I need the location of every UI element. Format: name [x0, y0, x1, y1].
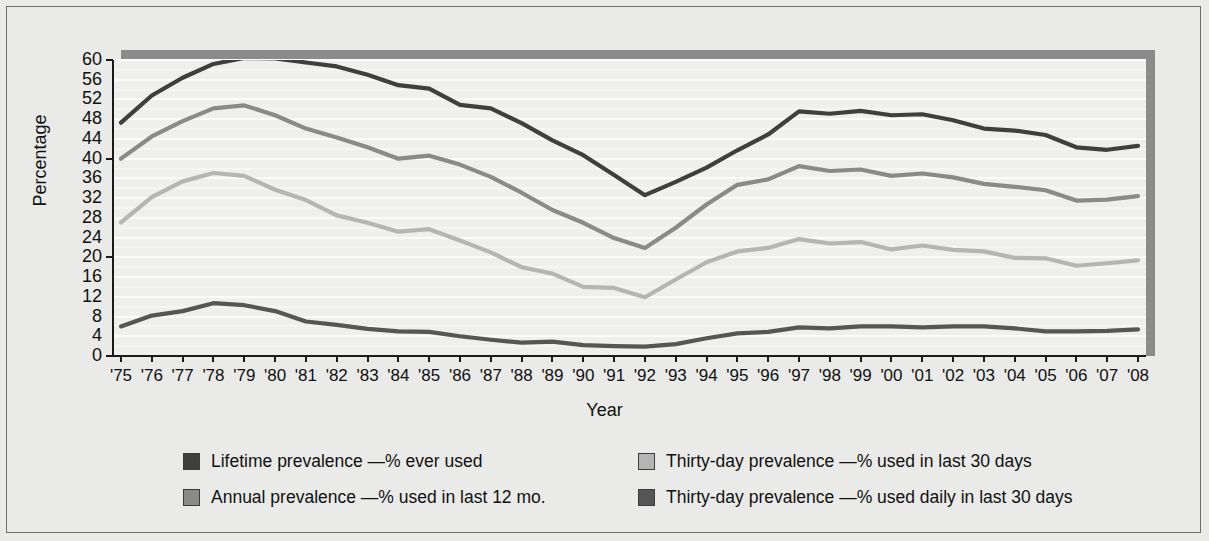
x-tick-mark — [767, 355, 769, 362]
y-tick-label: 12 — [32, 287, 102, 305]
series-line — [121, 303, 1138, 346]
x-tick-mark — [367, 355, 369, 362]
x-tick-mark — [582, 355, 584, 362]
x-tick-mark — [1137, 355, 1139, 362]
legend-row: Annual prevalence —% used in last 12 mo.… — [183, 479, 1123, 515]
y-tick-label: 4 — [32, 326, 102, 344]
x-tick-mark — [459, 355, 461, 362]
x-tick-mark — [613, 355, 615, 362]
x-tick-mark — [952, 355, 954, 362]
x-tick-mark — [490, 355, 492, 362]
x-tick-mark — [151, 355, 153, 362]
x-tick-mark — [706, 355, 708, 362]
x-tick-mark — [212, 355, 214, 362]
y-tick-mark — [106, 256, 113, 258]
legend: Lifetime prevalence —% ever usedThirty-d… — [183, 443, 1123, 515]
plot-area — [113, 60, 1146, 356]
y-axis — [112, 60, 114, 357]
plot-frame-shadow-top — [121, 50, 1155, 59]
x-tick-mark — [428, 355, 430, 362]
y-axis-title: Percentage — [30, 61, 51, 261]
x-tick-mark — [675, 355, 677, 362]
x-tick-mark — [305, 355, 307, 362]
legend-label: Thirty-day prevalence —% used daily in l… — [666, 487, 1073, 508]
legend-swatch-icon — [183, 453, 200, 470]
legend-swatch-icon — [638, 489, 655, 506]
x-tick-mark — [1075, 355, 1077, 362]
x-tick-label: '08 — [1118, 366, 1158, 386]
figure-container: 60565248444036322824201612840 '75'76'77'… — [0, 0, 1209, 541]
x-tick-mark — [829, 355, 831, 362]
x-tick-mark — [551, 355, 553, 362]
y-tick-mark — [106, 59, 113, 61]
x-tick-mark — [921, 355, 923, 362]
x-tick-mark — [1014, 355, 1016, 362]
series-line — [121, 60, 1138, 195]
x-tick-mark — [274, 355, 276, 362]
legend-label: Lifetime prevalence —% ever used — [211, 451, 482, 472]
legend-item[interactable]: Thirty-day prevalence —% used in last 30… — [638, 451, 1093, 472]
y-tick-mark — [106, 355, 113, 357]
x-tick-mark — [120, 355, 122, 362]
x-tick-mark — [736, 355, 738, 362]
x-tick-mark — [644, 355, 646, 362]
x-tick-mark — [860, 355, 862, 362]
x-tick-mark — [243, 355, 245, 362]
x-axis — [112, 355, 1146, 357]
y-tick-label: 0 — [32, 346, 102, 364]
y-tick-label: 16 — [32, 267, 102, 285]
x-tick-mark — [521, 355, 523, 362]
x-axis-title: Year — [0, 400, 1209, 421]
legend-label: Annual prevalence —% used in last 12 mo. — [211, 487, 546, 508]
plot-frame-shadow-right — [1146, 50, 1155, 356]
legend-item[interactable]: Lifetime prevalence —% ever used — [183, 451, 638, 472]
x-tick-mark — [397, 355, 399, 362]
series-lines — [113, 60, 1146, 356]
x-tick-mark — [1045, 355, 1047, 362]
legend-item[interactable]: Thirty-day prevalence —% used daily in l… — [638, 487, 1093, 508]
y-tick-label: 8 — [32, 307, 102, 325]
legend-swatch-icon — [638, 453, 655, 470]
y-tick-mark — [106, 158, 113, 160]
x-tick-mark — [336, 355, 338, 362]
x-tick-mark — [182, 355, 184, 362]
x-tick-mark — [983, 355, 985, 362]
legend-label: Thirty-day prevalence —% used in last 30… — [666, 451, 1032, 472]
x-tick-mark — [890, 355, 892, 362]
x-tick-mark — [1106, 355, 1108, 362]
legend-swatch-icon — [183, 489, 200, 506]
legend-item[interactable]: Annual prevalence —% used in last 12 mo. — [183, 487, 638, 508]
series-line — [121, 173, 1138, 297]
legend-row: Lifetime prevalence —% ever usedThirty-d… — [183, 443, 1123, 479]
x-tick-mark — [798, 355, 800, 362]
